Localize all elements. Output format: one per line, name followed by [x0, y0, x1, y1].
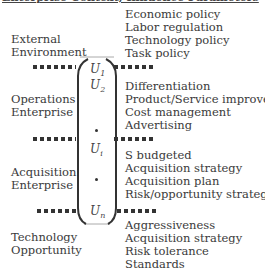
label-line: Enterprise [11, 179, 76, 192]
ellipsis-dot [95, 178, 98, 181]
separator-dots-right [117, 209, 159, 213]
diagram-heading: Enterprise Context, Influence Parameters [2, 0, 259, 4]
item-list-technology: Aggressiveness Acquisition strategy Risk… [125, 219, 242, 271]
list-item: Risk/opportunity strategy [125, 188, 265, 201]
label-line: Enterprise [11, 106, 75, 119]
utility-u2: U2 [90, 78, 105, 94]
list-item: Task policy [125, 47, 229, 60]
ellipsis-dot [95, 129, 98, 132]
utility-ui: Ui [90, 142, 103, 158]
category-label-acquisition: Acquisition Enterprise [11, 166, 76, 192]
separator-dots-right [114, 137, 156, 141]
separator-dots-left [33, 65, 76, 69]
utility-un: Un [90, 204, 105, 220]
separator-dots-left [33, 137, 76, 141]
label-line: Opportunity [11, 244, 82, 257]
item-list-operations: Differentiation Product/Service improvem… [125, 80, 265, 132]
utility-symbol: U [90, 78, 100, 92]
item-list-acquisition: S budgeted Acquisition strategy Acquisit… [125, 149, 265, 201]
utility-symbol: U [90, 204, 100, 218]
utility-subscript: n [100, 211, 105, 220]
utility-u1: U1 [90, 62, 105, 78]
list-item: Standards [125, 258, 242, 271]
utility-subscript: 2 [100, 85, 105, 94]
list-item: Advertising [125, 119, 265, 132]
category-label-operations: Operations Enterprise [11, 93, 75, 119]
item-list-external: Economic policy Labor regulation Technol… [125, 8, 229, 60]
category-label-technology: Technology Opportunity [11, 231, 82, 257]
utility-subscript: i [100, 149, 103, 158]
utility-symbol: U [90, 142, 100, 156]
utility-symbol: U [90, 62, 100, 76]
separator-dots-right [114, 65, 156, 69]
separator-dots-left [37, 209, 76, 213]
